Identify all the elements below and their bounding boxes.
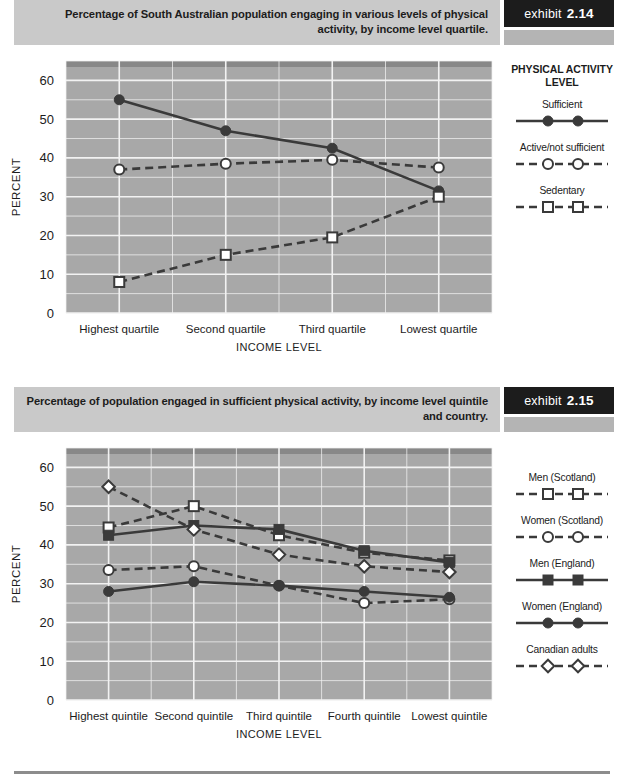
chart-legend-2-15: Men (Scotland)Women (Scotland)Men (Engla… bbox=[500, 432, 624, 756]
page-title: Percentage of population engaged in suff… bbox=[26, 394, 488, 424]
x-tick-label: Second quintile bbox=[154, 710, 233, 722]
data-point-open-square bbox=[327, 233, 337, 243]
legend-item: Men (Scotland) bbox=[500, 472, 624, 502]
legend-item-label: Sedentary bbox=[500, 185, 624, 196]
data-point-filled-circle bbox=[573, 618, 583, 628]
legend-item: Canadian adults bbox=[500, 644, 624, 674]
x-tick-label: Third quartile bbox=[299, 323, 366, 335]
legend-item: Women (Scotland) bbox=[500, 515, 624, 545]
data-point-open-square bbox=[543, 489, 553, 499]
data-point-open-square bbox=[573, 489, 583, 499]
exhibit-badge: exhibit 2.14 bbox=[504, 0, 614, 45]
data-point-filled-square bbox=[543, 575, 553, 585]
legend-item: Active/not sufficient bbox=[500, 142, 624, 172]
exhibit-page: Percentage of South Australian populatio… bbox=[0, 0, 624, 784]
legend-swatch-open-circle bbox=[510, 529, 614, 545]
y-tick-label: 50 bbox=[40, 112, 54, 127]
line-chart-2-14: 0102030405060PERCENTHighest quartileSeco… bbox=[0, 45, 500, 365]
y-tick-label: 0 bbox=[47, 693, 54, 708]
data-point-filled-circle bbox=[444, 593, 454, 603]
data-point-filled-circle bbox=[573, 116, 583, 126]
x-axis-label: INCOME LEVEL bbox=[236, 341, 322, 353]
badge-bar: exhibit 2.14 bbox=[504, 0, 614, 27]
y-tick-label: 40 bbox=[40, 538, 54, 553]
data-point-open-circle bbox=[543, 532, 553, 542]
y-tick-label: 60 bbox=[40, 73, 54, 88]
chart-canvas-2-14: 0102030405060PERCENTHighest quartileSeco… bbox=[0, 45, 500, 369]
x-tick-label: Second quartile bbox=[186, 323, 266, 335]
data-point-open-square bbox=[221, 250, 231, 260]
x-axis-label: INCOME LEVEL bbox=[236, 728, 322, 740]
legend-item: Sedentary bbox=[500, 185, 624, 215]
data-point-open-circle bbox=[327, 155, 337, 165]
badge-underbar bbox=[504, 30, 614, 45]
x-tick-label: Third quintile bbox=[246, 710, 312, 722]
y-tick-label: 30 bbox=[40, 577, 54, 592]
y-tick-label: 20 bbox=[40, 228, 54, 243]
data-point-filled-circle bbox=[274, 581, 284, 591]
legend-item: Men (England) bbox=[500, 558, 624, 588]
exhibit-2-14: Percentage of South Australian populatio… bbox=[0, 0, 624, 369]
legend-item: Sufficient bbox=[500, 99, 624, 129]
chart-legend-2-14: PHYSICAL ACTIVITY LEVEL SufficientActive… bbox=[500, 45, 624, 369]
data-point-open-square bbox=[543, 202, 553, 212]
y-axis-label: PERCENT bbox=[10, 545, 22, 603]
legend-item: Women (England) bbox=[500, 601, 624, 631]
legend-items: SufficientActive/not sufficientSedentary bbox=[500, 99, 624, 215]
x-tick-label: Highest quartile bbox=[79, 323, 159, 335]
y-tick-label: 40 bbox=[40, 151, 54, 166]
y-tick-label: 30 bbox=[40, 189, 54, 204]
data-point-filled-circle bbox=[543, 618, 553, 628]
data-point-filled-square bbox=[274, 525, 284, 535]
data-point-filled-square bbox=[573, 575, 583, 585]
legend-item-label: Women (Scotland) bbox=[500, 515, 624, 526]
y-tick-label: 20 bbox=[40, 615, 54, 630]
data-point-filled-square bbox=[104, 531, 114, 541]
data-point-filled-circle bbox=[543, 116, 553, 126]
legend-swatch-open-square bbox=[510, 486, 614, 502]
legend-swatch-filled-square bbox=[510, 572, 614, 588]
data-point-open-circle bbox=[573, 159, 583, 169]
chart-body-2-15: 0102030405060PERCENTHighest quintileSeco… bbox=[0, 432, 624, 756]
chart-canvas-2-15: 0102030405060PERCENTHighest quintileSeco… bbox=[0, 432, 500, 756]
exhibit-title-bar: Percentage of South Australian populatio… bbox=[14, 0, 500, 45]
y-tick-label: 50 bbox=[40, 499, 54, 514]
data-point-filled-square bbox=[359, 546, 369, 556]
y-axis-label: PERCENT bbox=[10, 158, 22, 216]
exhibit-badge: exhibit 2.15 bbox=[504, 387, 614, 432]
data-point-filled-circle bbox=[221, 126, 231, 136]
data-point-open-square bbox=[189, 502, 199, 512]
data-point-open-square bbox=[573, 202, 583, 212]
exhibit-title-bar: Percentage of population engaged in suff… bbox=[14, 387, 500, 432]
data-point-open-circle bbox=[573, 532, 583, 542]
data-point-filled-circle bbox=[359, 587, 369, 597]
data-point-open-diamond bbox=[572, 660, 585, 673]
data-point-filled-circle bbox=[327, 143, 337, 153]
legend-swatch-filled-circle bbox=[510, 615, 614, 631]
y-tick-label: 10 bbox=[40, 267, 54, 282]
badge-word: exhibit bbox=[524, 7, 562, 21]
data-point-open-circle bbox=[104, 566, 114, 576]
data-point-filled-circle bbox=[189, 577, 199, 587]
chart-body-2-14: 0102030405060PERCENTHighest quartileSeco… bbox=[0, 45, 624, 369]
legend-items: Men (Scotland)Women (Scotland)Men (Engla… bbox=[500, 472, 624, 674]
data-point-open-circle bbox=[359, 599, 369, 609]
data-point-open-circle bbox=[114, 165, 124, 175]
legend-swatch-open-square bbox=[510, 199, 614, 215]
legend-swatch-filled-circle bbox=[510, 113, 614, 129]
x-tick-label: Lowest quartile bbox=[400, 323, 477, 335]
data-point-open-circle bbox=[434, 163, 444, 173]
y-tick-label: 60 bbox=[40, 460, 54, 475]
footer-rule bbox=[14, 771, 610, 774]
page-title: Percentage of South Australian populatio… bbox=[26, 7, 488, 37]
legend-item-label: Sufficient bbox=[500, 99, 624, 110]
legend-item-label: Men (Scotland) bbox=[500, 472, 624, 483]
badge-underbar bbox=[504, 417, 614, 432]
legend-item-label: Men (England) bbox=[500, 558, 624, 569]
badge-word: exhibit bbox=[524, 394, 562, 408]
x-tick-label: Highest quintile bbox=[69, 710, 148, 722]
data-point-open-circle bbox=[189, 562, 199, 572]
data-point-open-diamond bbox=[542, 660, 555, 673]
data-point-open-circle bbox=[543, 159, 553, 169]
legend-item-label: Women (England) bbox=[500, 601, 624, 612]
